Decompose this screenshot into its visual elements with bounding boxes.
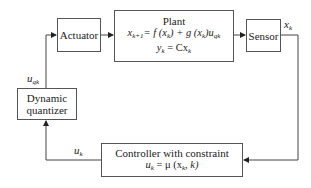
- plant-title: Plant: [163, 15, 186, 27]
- quantizer-label-line1: Dynamic: [27, 92, 67, 104]
- arrow-sensor-to-controller: [244, 35, 298, 160]
- signal-label-uqk: uqk: [27, 72, 39, 86]
- plant-output-equation: yk = Cxk: [157, 42, 191, 57]
- actuator-block: Actuator: [57, 18, 101, 52]
- signal-label-uk: uk: [74, 144, 83, 158]
- quantizer-label-line2: quantizer: [27, 104, 68, 116]
- controller-block: Controller with constraint uk = μ (xk, k…: [101, 143, 243, 177]
- dynamic-quantizer-block: Dynamic quantizer: [17, 88, 77, 120]
- plant-state-equation: xk+1= f (xk) + g (xk)uqk: [128, 27, 221, 42]
- actuator-label: Actuator: [60, 29, 98, 41]
- signal-label-xk: xk: [284, 18, 292, 32]
- sensor-label: Sensor: [249, 30, 279, 42]
- arrow-quantizer-to-actuator: [46, 35, 56, 88]
- controller-title: Controller with constraint: [115, 147, 229, 159]
- controller-equation: uk = μ (xk, k): [145, 159, 198, 174]
- plant-block: Plant xk+1= f (xk) + g (xk)uqk yk = Cxk: [114, 10, 234, 62]
- sensor-block: Sensor: [246, 19, 281, 52]
